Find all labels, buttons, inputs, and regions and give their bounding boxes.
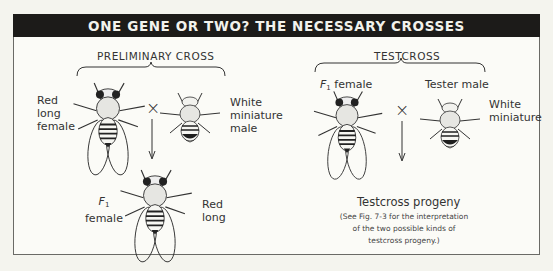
preliminary-brace: [77, 62, 225, 76]
f1-female-label: F1 female: [85, 195, 123, 225]
testcross-progeny-title: Testcross progeny: [357, 195, 460, 209]
f1-female-fly: [121, 170, 192, 263]
testcross-f1-female-label: F1 female: [320, 78, 372, 95]
red-long-female-fly: [74, 83, 145, 176]
parent-male-label: White miniature male: [230, 96, 283, 135]
testcross-brace: [315, 58, 485, 72]
testcross-f1-female-fly: [314, 91, 382, 180]
tester-male-phenotype-label: White miniature: [489, 98, 542, 124]
cross-symbol-preliminary: ×: [146, 98, 160, 118]
parent-female-label: Red long female: [37, 94, 75, 133]
testcross-progeny-note: (See Fig. 7-3 for the interpretation of …: [338, 211, 470, 247]
cross-symbol-testcross: ×: [395, 100, 409, 120]
tester-male-label: Tester male: [425, 78, 489, 91]
f1-phenotype-label: Red long: [202, 198, 226, 224]
tester-male-fly: [420, 99, 480, 148]
diagram-graphics: [0, 0, 553, 271]
white-miniature-male-fly: [160, 93, 220, 142]
